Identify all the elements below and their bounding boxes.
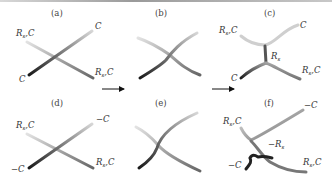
label-neg-rs: −Rs [268, 139, 285, 150]
panel-d: (d) Rs,C −C −C Rs,C [11, 98, 115, 174]
label-rc-top: Rs,C [222, 116, 242, 127]
panel-label-e: (e) [155, 98, 167, 108]
panel-c: (c) Rs,C C Rs C Rs,C [218, 8, 321, 83]
label-rc-top: Rs,C [218, 25, 238, 36]
strand-c [29, 31, 92, 75]
panel-e: (e) [136, 98, 200, 171]
panel-f: (f) Rs,C −C −Rs −C Rs,C [222, 98, 322, 172]
label-rs: Rs [270, 51, 280, 62]
panel-label-f: (f) [264, 98, 274, 108]
label-c-bottom: C [19, 74, 26, 84]
label-c-top: C [300, 20, 307, 30]
panel-label-b: (b) [155, 8, 167, 18]
label-neg-c-top: −C [304, 100, 318, 110]
label-rc-bottom: Rs,C [95, 157, 115, 168]
label-neg-c-bottom: −C [228, 160, 242, 170]
panel-label-a: (a) [51, 8, 63, 18]
strand-upper [241, 110, 303, 140]
label-neg-c-top: −C [96, 114, 110, 124]
strand-r [27, 42, 93, 78]
strand-neg-c [139, 113, 197, 168]
panel-b: (b) [138, 8, 200, 78]
panel-a: (a) Rs,C C C Rs,C [15, 8, 114, 84]
label-c-bottom: C [231, 73, 238, 83]
label-rc-top: Rs,C [15, 120, 35, 131]
label-rc-bottom: Rs,C [94, 67, 114, 78]
label-rc-top: Rs,C [15, 28, 35, 39]
label-c-top: C [95, 21, 102, 31]
strand-rs-middle [265, 46, 266, 63]
label-rc-bottom: Rs,C [302, 157, 322, 168]
panel-label-c: (c) [264, 8, 275, 18]
panel-label-d: (d) [51, 98, 63, 108]
label-rc-bottom: Rs,C [301, 65, 321, 76]
label-neg-c-bottom: −C [11, 164, 25, 174]
strand-lower [241, 63, 300, 79]
strand-upper [241, 25, 298, 45]
diagram-canvas: (a) Rs,C C C Rs,C (b) (c) Rs,C C Rs C Rs… [0, 0, 332, 185]
